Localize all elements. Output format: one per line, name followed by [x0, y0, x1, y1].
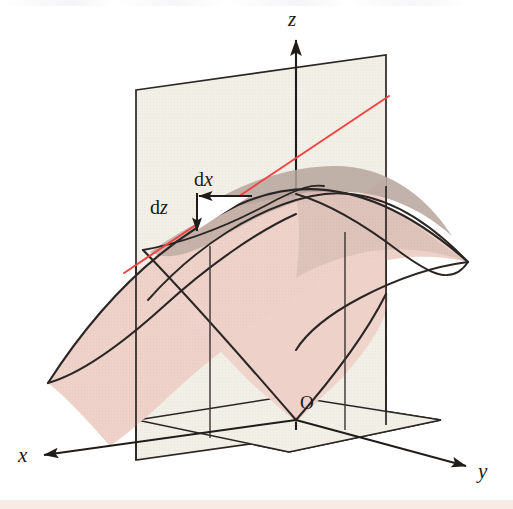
dx-label-prefix: d: [194, 168, 204, 190]
origin-label: O: [300, 392, 314, 413]
x-axis-label: x: [17, 443, 28, 467]
z-axis-label: z: [287, 7, 296, 31]
dz-label-prefix: d: [150, 196, 160, 218]
figure-root: x y z O dx dz: [0, 0, 513, 509]
dx-label-variable: x: [203, 168, 213, 190]
y-axis-label: y: [476, 459, 488, 483]
dz-label: dz: [150, 196, 168, 218]
dx-label: dx: [194, 168, 213, 190]
saddle-surface-diagram: x y z O dx dz: [0, 0, 513, 509]
dz-label-variable: z: [159, 196, 168, 218]
